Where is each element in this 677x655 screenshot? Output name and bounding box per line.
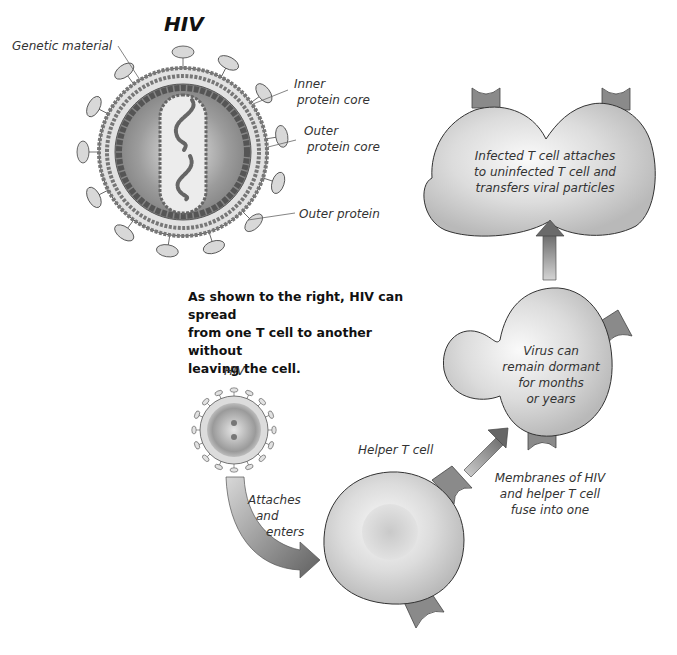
hiv-title: HIV: [164, 12, 204, 36]
label-dormant: Virus can remain dormant for months or y…: [496, 343, 606, 407]
hiv-virion-large: [77, 46, 289, 258]
label-outer-protein: Outer protein: [299, 207, 380, 222]
label-small-hiv: HIV: [224, 364, 245, 379]
label-inner-core-2: protein core: [297, 93, 370, 108]
label-inner-core-1: Inner: [294, 77, 325, 92]
label-outer-core-2: protein core: [307, 140, 380, 155]
label-outer-core-1: Outer: [304, 124, 338, 139]
label-genetic-material: Genetic material: [12, 39, 112, 54]
helper-t-cell: [324, 466, 472, 628]
label-helper-t-cell: Helper T cell: [358, 443, 433, 458]
label-transfer: Infected T cell attaches to uninfected T…: [470, 148, 620, 196]
label-attaches-enters: Attaches and enters: [248, 492, 304, 540]
label-membranes-fuse: Membranes of HIV and helper T cell fuse …: [480, 470, 620, 518]
hiv-virion-small: [192, 388, 276, 472]
